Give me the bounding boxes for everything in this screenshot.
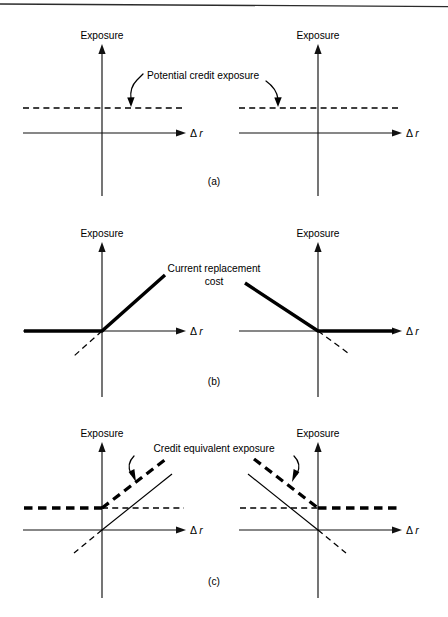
- x-axis-variable: r: [199, 524, 203, 536]
- x-axis-variable: r: [415, 127, 419, 139]
- annotation-label: Potential credit exposure: [147, 70, 259, 81]
- annotation-label-line2: cost: [205, 276, 224, 287]
- annotation-label-line1: Current replacement: [168, 263, 261, 274]
- y-axis-label: Exposure: [80, 30, 123, 41]
- panel-caption-a: (a): [208, 176, 220, 187]
- y-axis-label: Exposure: [80, 228, 123, 239]
- panel-caption-c: (c): [208, 576, 220, 587]
- annotation-label: Credit equivalent exposure: [153, 443, 275, 454]
- x-axis-label: Δ r: [190, 325, 203, 337]
- x-axis-label: Δ r: [406, 127, 419, 139]
- y-axis-label: Exposure: [80, 428, 123, 439]
- x-axis-label: Δ r: [190, 524, 203, 536]
- x-axis-variable: r: [199, 325, 203, 337]
- x-axis-variable: r: [199, 127, 203, 139]
- x-axis-label: Δ r: [190, 127, 203, 139]
- panel-caption-b: (b): [208, 376, 220, 387]
- x-axis-variable: r: [415, 325, 419, 337]
- figure-canvas: Exposure Δ r Exposure Δ r Potential cred…: [0, 0, 448, 617]
- y-axis-label: Exposure: [296, 428, 339, 439]
- y-axis-label: Exposure: [296, 30, 339, 41]
- y-axis-label: Exposure: [296, 228, 339, 239]
- x-axis-label: Δ r: [406, 325, 419, 337]
- x-axis-label: Δ r: [406, 524, 419, 536]
- page-background: [0, 0, 448, 617]
- figure-root: Exposure Δ r Exposure Δ r Potential cred…: [0, 0, 448, 617]
- x-axis-variable: r: [415, 524, 419, 536]
